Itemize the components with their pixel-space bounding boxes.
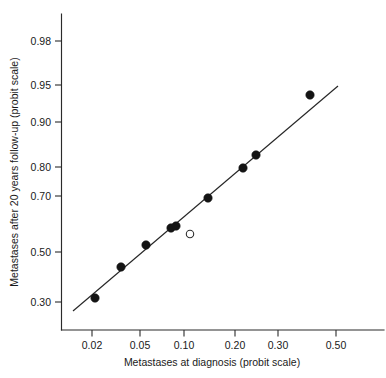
plot-canvas: 0.98 0.95 0.90 0.80 0.70 0.50 0.30 0.02 … <box>0 0 386 378</box>
y-tick-label-0: 0.30 <box>31 296 52 308</box>
data-point <box>306 91 314 99</box>
scatter-plot-figure: 0.98 0.95 0.90 0.80 0.70 0.50 0.30 0.02 … <box>0 0 386 378</box>
data-points-open <box>186 230 193 237</box>
x-tick-label-3: 0.20 <box>225 339 246 351</box>
x-tick-label-4: 0.30 <box>268 339 289 351</box>
x-axis-tick-labels: 0.02 0.05 0.10 0.20 0.30 0.50 <box>82 339 347 351</box>
data-point <box>142 241 150 249</box>
y-tick-label-2: 0.70 <box>31 190 52 202</box>
x-axis-title: Metastases at diagnosis (probit scale) <box>124 356 300 368</box>
data-point <box>172 222 180 230</box>
x-tick-label-2: 0.10 <box>174 339 195 351</box>
data-point <box>91 294 99 302</box>
y-tick-label-4: 0.90 <box>31 116 52 128</box>
axes-group <box>62 14 385 330</box>
x-tick-label-1: 0.05 <box>130 339 151 351</box>
y-tick-label-1: 0.50 <box>31 246 52 258</box>
x-axis-ticks <box>92 330 336 337</box>
y-axis-ticks <box>55 41 62 302</box>
y-axis-tick-labels: 0.98 0.95 0.90 0.80 0.70 0.50 0.30 <box>31 35 52 308</box>
x-tick-label-5: 0.50 <box>326 339 347 351</box>
y-tick-label-5: 0.95 <box>31 79 52 91</box>
data-point <box>117 263 125 271</box>
data-points-filled <box>91 91 314 302</box>
data-point <box>252 151 260 159</box>
data-point <box>204 194 212 202</box>
data-point-open <box>186 230 193 237</box>
data-point <box>239 164 247 172</box>
y-tick-label-6: 0.98 <box>31 35 52 47</box>
x-tick-label-0: 0.02 <box>82 339 103 351</box>
y-tick-label-3: 0.80 <box>31 161 52 173</box>
y-axis-title: Metastases after 20 years follow-up (pro… <box>8 57 20 286</box>
